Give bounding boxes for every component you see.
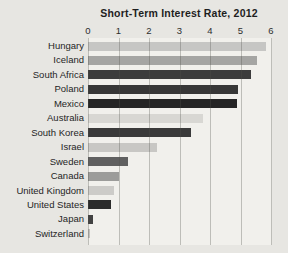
x-tick-label-3: 3 xyxy=(169,25,191,36)
chart-figure: Short-Term Interest Rate, 2012 0123456 H… xyxy=(0,0,288,253)
category-label-south-korea: South Korea xyxy=(0,128,84,138)
category-label-united-kingdom: United Kingdom xyxy=(0,186,84,196)
category-label-japan: Japan xyxy=(0,214,84,224)
x-tick-label-1: 1 xyxy=(108,25,130,36)
bar-south-africa xyxy=(88,70,251,79)
category-label-poland: Poland xyxy=(0,84,84,94)
bar-israel xyxy=(88,143,157,152)
category-label-mexico: Mexico xyxy=(0,99,84,109)
category-label-switzerland: Switzerland xyxy=(0,229,84,239)
bar-mexico xyxy=(88,99,237,108)
bar-sweden xyxy=(88,157,128,166)
category-label-iceland: Iceland xyxy=(0,55,84,65)
category-label-sweden: Sweden xyxy=(0,157,84,167)
bar-south-korea xyxy=(88,128,191,137)
gridline-x-4 xyxy=(210,38,211,245)
gridline-x-5 xyxy=(241,38,242,245)
plot-area xyxy=(88,38,272,245)
gridline-x-0 xyxy=(88,38,89,245)
gridline-x-6 xyxy=(271,38,272,245)
category-label-united-states: United States xyxy=(0,200,84,210)
bar-iceland xyxy=(88,56,257,65)
category-label-hungary: Hungary xyxy=(0,41,84,51)
x-tick-label-0: 0 xyxy=(77,25,99,36)
bar-united-states xyxy=(88,200,111,209)
x-tick-label-5: 5 xyxy=(230,25,252,36)
x-tick-label-6: 6 xyxy=(260,25,282,36)
x-tick-label-4: 4 xyxy=(199,25,221,36)
bar-australia xyxy=(88,114,203,123)
category-label-israel: Israel xyxy=(0,142,84,152)
category-label-south-africa: South Africa xyxy=(0,70,84,80)
chart-title: Short-Term Interest Rate, 2012 xyxy=(70,7,288,19)
bar-poland xyxy=(88,85,238,94)
bar-united-kingdom xyxy=(88,186,114,195)
category-label-australia: Australia xyxy=(0,113,84,123)
x-tick-label-2: 2 xyxy=(138,25,160,36)
bar-hungary xyxy=(88,42,266,51)
gridline-x-1 xyxy=(119,38,120,245)
bar-canada xyxy=(88,172,119,181)
gridline-x-2 xyxy=(149,38,150,245)
category-label-canada: Canada xyxy=(0,171,84,181)
gridline-x-3 xyxy=(180,38,181,245)
